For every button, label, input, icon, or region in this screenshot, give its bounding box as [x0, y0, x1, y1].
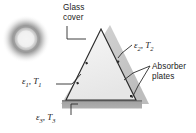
label-emissivity-temperature-1: ε1, T1 [22, 76, 41, 88]
temperature-3-subscript: 3 [52, 117, 55, 124]
sun-icon [2, 15, 50, 63]
solar-collector-diagram: Glass cover Absorber plates ε1, T1 ε2, T… [0, 0, 196, 133]
label-emissivity-temperature-3: ε3, T3 [36, 112, 55, 124]
label-absorber-plates-line2: plates [152, 72, 186, 82]
label-glass-cover-line2: cover [63, 13, 84, 23]
temperature-1-subscript: 1 [38, 81, 41, 88]
temperature-2-subscript: 2 [150, 45, 153, 52]
label-glass-cover: Glass cover [63, 3, 84, 22]
label-glass-cover-line1: Glass [63, 3, 84, 12]
separator-comma-2: , [141, 40, 143, 50]
label-emissivity-temperature-2: ε2, T2 [134, 40, 153, 52]
label-absorber-plates-line1: Absorber [152, 62, 186, 71]
separator-comma-3: , [43, 112, 45, 122]
glass-cover-leader-line [67, 26, 86, 39]
separator-comma-1: , [29, 76, 31, 86]
label-absorber-plates: Absorber plates [152, 62, 186, 81]
